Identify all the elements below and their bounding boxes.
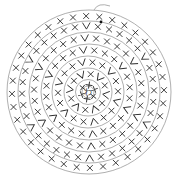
x-stitch-icon bbox=[77, 143, 82, 148]
x-stitch-icon bbox=[160, 74, 165, 79]
x-stitch-icon bbox=[64, 152, 69, 157]
x-stitch-icon bbox=[148, 110, 153, 115]
v-stitch-icon bbox=[61, 107, 70, 117]
x-stitch-icon bbox=[15, 117, 20, 122]
x-stitch-icon bbox=[44, 94, 49, 99]
x-stitch-icon bbox=[135, 46, 140, 51]
x-stitch-icon bbox=[43, 56, 48, 61]
x-stitch-icon bbox=[46, 25, 51, 30]
x-stitch-icon bbox=[150, 50, 155, 55]
v-stitch-icon bbox=[122, 104, 131, 113]
x-stitch-icon bbox=[79, 131, 84, 136]
x-stitch-icon bbox=[97, 14, 102, 19]
v-stitch-icon bbox=[35, 63, 44, 72]
x-stitch-icon bbox=[34, 48, 39, 53]
x-stitch-icon bbox=[127, 38, 132, 43]
end-marker-icon bbox=[100, 21, 103, 24]
x-stitch-icon bbox=[84, 13, 89, 18]
x-stitch-icon bbox=[62, 71, 67, 76]
x-stitch-icon bbox=[23, 68, 28, 73]
x-stitch-icon bbox=[13, 65, 18, 70]
x-stitch-icon bbox=[71, 78, 76, 83]
x-stitch-icon bbox=[151, 88, 156, 93]
x-stitch-icon bbox=[109, 108, 114, 113]
x-stitch-icon bbox=[71, 37, 76, 42]
x-stitch-icon bbox=[100, 63, 105, 68]
x-stitch-icon bbox=[113, 160, 118, 165]
x-stitch-icon bbox=[70, 50, 75, 55]
x-stitch-icon bbox=[51, 48, 56, 53]
v-stitch-icon bbox=[83, 23, 90, 29]
x-stitch-icon bbox=[110, 123, 115, 128]
x-stitch-icon bbox=[125, 74, 130, 79]
x-stitch-icon bbox=[139, 81, 144, 86]
x-stitch-icon bbox=[36, 133, 41, 138]
x-stitch-icon bbox=[55, 90, 60, 95]
v-stitch-icon bbox=[38, 117, 47, 127]
x-stitch-icon bbox=[100, 164, 105, 169]
x-stitch-icon bbox=[35, 109, 40, 114]
x-stitch-icon bbox=[56, 135, 61, 140]
magic-ring-label: わ bbox=[84, 88, 92, 97]
x-stitch-icon bbox=[32, 98, 37, 103]
x-stitch-icon bbox=[147, 65, 152, 70]
x-stitch-icon bbox=[118, 116, 123, 121]
x-stitch-icon bbox=[104, 39, 109, 44]
x-stitch-icon bbox=[71, 116, 76, 121]
x-stitch-icon bbox=[113, 78, 118, 83]
v-stitch-icon bbox=[90, 118, 98, 126]
x-stitch-icon bbox=[138, 103, 143, 108]
x-stitch-icon bbox=[95, 24, 100, 29]
x-stitch-icon bbox=[9, 91, 14, 96]
x-stitch-icon bbox=[101, 115, 106, 120]
x-stitch-icon bbox=[38, 149, 43, 154]
x-stitch-icon bbox=[19, 91, 24, 96]
x-stitch-icon bbox=[19, 53, 24, 58]
x-stitch-icon bbox=[90, 60, 95, 65]
x-stitch-icon bbox=[101, 129, 106, 134]
x-stitch-icon bbox=[53, 63, 58, 68]
v-stitch-icon bbox=[106, 67, 115, 77]
x-stitch-icon bbox=[100, 141, 105, 146]
x-stitch-icon bbox=[47, 128, 52, 133]
x-stitch-icon bbox=[152, 126, 157, 131]
crochet-chart: わ bbox=[0, 0, 179, 179]
x-stitch-icon bbox=[161, 88, 166, 93]
x-stitch-icon bbox=[46, 105, 51, 110]
x-stitch-icon bbox=[109, 151, 114, 156]
x-stitch-icon bbox=[42, 40, 47, 45]
x-stitch-icon bbox=[92, 48, 97, 53]
x-stitch-icon bbox=[142, 39, 147, 44]
x-stitch-icon bbox=[136, 146, 141, 151]
v-stitch-icon bbox=[112, 97, 120, 106]
x-stitch-icon bbox=[110, 137, 115, 142]
x-stitch-icon bbox=[81, 119, 86, 124]
x-stitch-icon bbox=[35, 32, 40, 37]
x-stitch-icon bbox=[102, 83, 107, 88]
x-stitch-icon bbox=[54, 147, 59, 152]
x-stitch-icon bbox=[28, 140, 33, 145]
x-stitch-icon bbox=[139, 92, 144, 97]
x-stitch-icon bbox=[129, 139, 134, 144]
x-stitch-icon bbox=[69, 128, 74, 133]
x-stitch-icon bbox=[156, 62, 161, 67]
x-stitch-icon bbox=[26, 42, 31, 47]
v-stitch-icon bbox=[89, 130, 97, 137]
spiral-tail bbox=[94, 5, 110, 10]
x-stitch-icon bbox=[150, 76, 155, 81]
x-stitch-icon bbox=[120, 146, 125, 151]
x-stitch-icon bbox=[11, 104, 16, 109]
x-stitch-icon bbox=[49, 156, 54, 161]
v-stitch-icon bbox=[79, 47, 87, 54]
x-stitch-icon bbox=[88, 72, 93, 77]
x-stitch-icon bbox=[93, 36, 98, 41]
x-stitch-icon bbox=[51, 33, 56, 38]
x-stitch-icon bbox=[123, 51, 128, 56]
x-stitch-icon bbox=[120, 131, 125, 136]
v-stitch-icon bbox=[45, 71, 54, 80]
x-stitch-icon bbox=[136, 70, 141, 75]
x-stitch-icon bbox=[61, 28, 66, 33]
v-stitch-icon bbox=[102, 91, 109, 99]
x-stitch-icon bbox=[76, 155, 81, 160]
x-stitch-icon bbox=[24, 113, 29, 118]
